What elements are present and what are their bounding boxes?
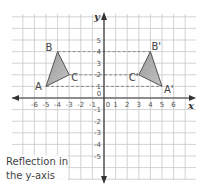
caption-line-2: the y-axis — [6, 169, 68, 183]
svg-text:B': B' — [151, 41, 161, 52]
svg-text:1: 1 — [97, 83, 101, 91]
svg-text:-5: -5 — [94, 153, 101, 161]
svg-text:5: 5 — [160, 101, 164, 109]
svg-text:B: B — [46, 42, 53, 53]
svg-text:0: 0 — [106, 101, 110, 109]
caption-line-1: Reflection in — [6, 155, 68, 169]
svg-text:5: 5 — [97, 37, 101, 45]
svg-text:4: 4 — [148, 101, 153, 109]
svg-text:-3: -3 — [94, 129, 101, 137]
svg-text:2: 2 — [125, 101, 129, 109]
svg-text:0: 0 — [97, 90, 101, 98]
svg-text:2: 2 — [97, 71, 101, 79]
svg-text:-6: -6 — [31, 101, 39, 109]
svg-text:3: 3 — [97, 60, 101, 68]
svg-text:-1: -1 — [94, 106, 101, 114]
svg-text:-3: -3 — [66, 101, 73, 109]
caption: Reflection in the y-axis — [6, 155, 68, 183]
svg-text:C': C' — [129, 72, 139, 83]
svg-text:x: x — [187, 100, 195, 111]
svg-text:A: A — [35, 81, 42, 92]
svg-text:-2: -2 — [94, 118, 101, 126]
svg-text:-2: -2 — [77, 101, 84, 109]
svg-text:3: 3 — [137, 101, 141, 109]
svg-text:C: C — [71, 72, 78, 83]
svg-text:1: 1 — [113, 101, 117, 109]
svg-text:A': A' — [164, 84, 174, 95]
svg-text:-5: -5 — [43, 101, 50, 109]
svg-text:-4: -4 — [94, 141, 102, 149]
svg-text:y: y — [93, 11, 101, 22]
svg-text:6: 6 — [171, 101, 176, 109]
svg-text:-4: -4 — [54, 101, 62, 109]
svg-text:4: 4 — [97, 48, 102, 56]
